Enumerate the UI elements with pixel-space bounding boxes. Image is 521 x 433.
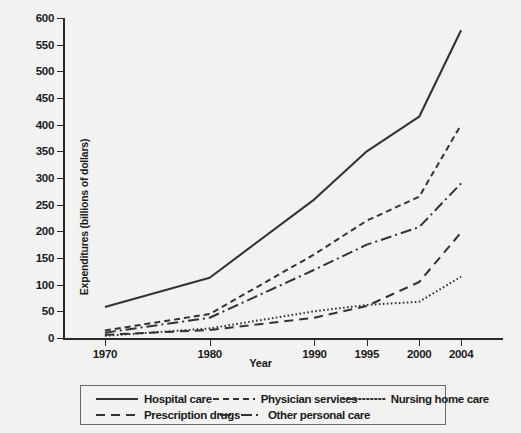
legend-line-swatch xyxy=(95,394,139,404)
chart-legend: Hospital carePhysician servicesNursing h… xyxy=(80,385,446,425)
y-axis-tick-label: 50 xyxy=(42,305,54,317)
y-axis-tick-label: 250 xyxy=(36,199,54,211)
x-axis-tick xyxy=(419,340,420,346)
legend-line-swatch xyxy=(342,394,386,404)
series-line xyxy=(105,183,461,332)
legend-line-swatch xyxy=(219,410,263,420)
legend-label: Nursing home care xyxy=(391,393,489,405)
legend-line-swatch xyxy=(212,394,256,404)
x-axis-tick xyxy=(105,340,106,346)
legend-item[interactable]: Nursing home care xyxy=(342,393,489,405)
series-line xyxy=(105,30,461,307)
x-axis-tick xyxy=(461,340,462,346)
y-axis-tick-label: 350 xyxy=(36,145,54,157)
legend-label: Other personal care xyxy=(268,409,370,421)
legend-label: Hospital care xyxy=(144,393,212,405)
legend-row: Prescription drugsOther personal care xyxy=(95,407,437,423)
series-line xyxy=(105,125,461,331)
y-axis-tick-label: 550 xyxy=(36,39,54,51)
x-axis-title: Year xyxy=(0,357,521,369)
legend-item[interactable]: Prescription drugs xyxy=(95,409,219,421)
y-axis-tick-label: 100 xyxy=(36,279,54,291)
y-axis-tick-label: 500 xyxy=(36,65,54,77)
y-axis-tick-label: 200 xyxy=(36,225,54,237)
x-axis-tick xyxy=(367,340,368,346)
x-axis-tick xyxy=(314,340,315,346)
legend-item[interactable]: Other personal care xyxy=(219,409,349,421)
plot-area: 050100150200250300350400450500550600 197… xyxy=(63,18,503,340)
y-axis-tick-label: 150 xyxy=(36,252,54,264)
legend-item[interactable]: Physician services xyxy=(212,393,342,405)
y-axis-tick-label: 450 xyxy=(36,92,54,104)
series-lines xyxy=(63,18,503,340)
x-axis-tick xyxy=(210,340,211,346)
y-axis-tick-label: 400 xyxy=(36,119,54,131)
line-chart-figure: Expenditures (billions of dollars) 05010… xyxy=(0,0,521,433)
legend-line-swatch xyxy=(95,410,139,420)
legend-item[interactable]: Hospital care xyxy=(95,393,212,405)
y-axis-tick-label: 300 xyxy=(36,172,54,184)
series-line xyxy=(105,277,461,336)
y-axis-tick-label: 600 xyxy=(36,12,54,24)
legend-row: Hospital carePhysician servicesNursing h… xyxy=(95,391,437,407)
series-line xyxy=(105,232,461,334)
y-axis-tick-label: 0 xyxy=(48,332,54,344)
